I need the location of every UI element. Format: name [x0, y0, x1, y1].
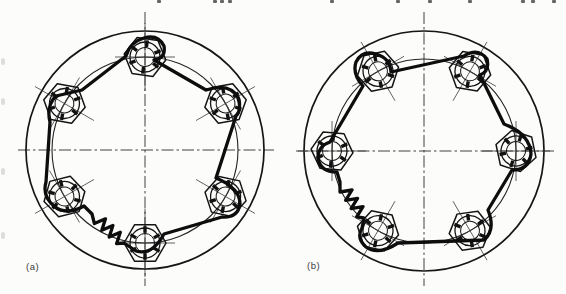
text-fragment-mark	[213, 0, 217, 3]
castellation-slot	[472, 55, 473, 61]
castellation-slot	[519, 135, 521, 141]
castellation-slot	[222, 206, 223, 212]
text-fragment-mark	[228, 0, 232, 3]
castellation-slot	[467, 81, 468, 87]
text-fragment-mark	[396, 0, 400, 3]
castellation-slot	[60, 180, 62, 186]
text-fragment-mark	[531, 0, 535, 3]
castellation-slot	[468, 214, 469, 221]
scan-speck	[1, 58, 5, 65]
castellation-slot	[62, 114, 63, 120]
castellation-slot	[504, 139, 510, 144]
scan-speck	[1, 232, 5, 239]
panel-a-drawing	[18, 12, 274, 286]
figure-svg	[0, 0, 566, 294]
panel-b-label: (b)	[307, 260, 320, 271]
castellation-slot	[146, 40, 147, 47]
scan-speck	[1, 168, 5, 175]
text-fragment-mark	[428, 0, 432, 3]
castellation-slot	[380, 214, 381, 220]
castellation-slot	[375, 241, 376, 247]
castellation-slot	[375, 55, 376, 61]
text-fragment-mark	[330, 0, 334, 3]
text-fragment-mark	[468, 0, 472, 3]
text-fragment-mark	[157, 0, 161, 3]
panel-b-drawing	[296, 12, 556, 286]
text-fragment-mark	[552, 0, 556, 3]
text-fragment-mark	[521, 0, 525, 3]
figure-lock-wiring: (a) (b)	[0, 0, 566, 294]
scan-speck	[1, 98, 5, 105]
castellation-slot	[380, 81, 381, 87]
castellation-slot	[143, 67, 144, 74]
text-fragment-mark	[220, 0, 224, 3]
castellation-slot	[331, 161, 332, 168]
castellation-slot	[511, 161, 513, 167]
panel-a-label: (a)	[26, 261, 39, 272]
castellation-slot	[227, 114, 228, 120]
castellation-slot	[71, 185, 77, 190]
